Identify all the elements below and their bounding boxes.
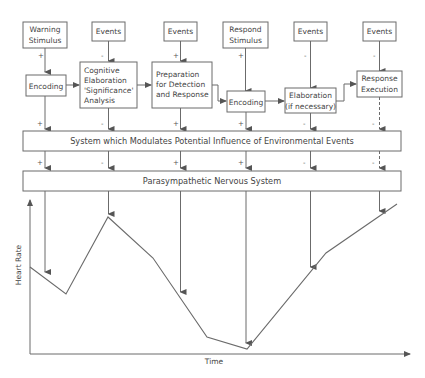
svg-text:Encoding: Encoding: [29, 82, 64, 91]
svg-text:Events: Events: [298, 27, 323, 36]
svg-text:and Response: and Response: [156, 90, 209, 99]
top-box-events-2: Events: [164, 22, 197, 41]
lower-arrows: + - + + - -: [37, 151, 380, 168]
process-box-preparation: Preparation for Detection and Response: [152, 62, 212, 108]
svg-text:+: +: [37, 120, 43, 128]
x-axis-label: Time: [204, 357, 224, 366]
svg-text:System which Modulates Potenti: System which Modulates Potential Influen…: [70, 136, 354, 146]
svg-text:Respond: Respond: [229, 25, 261, 34]
svg-text:Events: Events: [96, 27, 121, 36]
process-box-elaboration: Elaboration (if necessary): [285, 88, 336, 113]
y-axis-label: Heart Rate: [14, 244, 23, 285]
svg-text:+: +: [238, 52, 244, 60]
svg-text:Cognitive: Cognitive: [84, 66, 120, 75]
svg-text:Analysis: Analysis: [84, 96, 115, 105]
heart-rate-curve: [30, 204, 397, 349]
svg-text:-: -: [101, 52, 104, 60]
top-box-events-4: Events: [363, 22, 396, 41]
effect-arrows: [45, 191, 380, 343]
svg-text:-: -: [373, 52, 376, 60]
svg-text:Events: Events: [367, 27, 392, 36]
chart-axes: Time Heart Rate: [14, 200, 410, 366]
modulation-system-bar: System which Modulates Potential Influen…: [23, 131, 401, 151]
svg-text:Parasympathetic Nervous System: Parasympathetic Nervous System: [143, 176, 281, 186]
svg-text:-: -: [304, 52, 307, 60]
process-box-encoding-1: Encoding: [26, 75, 66, 96]
svg-text:Warning: Warning: [30, 25, 61, 34]
svg-text:Stimulus: Stimulus: [29, 36, 62, 45]
svg-text:for Detection: for Detection: [156, 80, 205, 89]
svg-text:+: +: [173, 120, 179, 128]
diagram-canvas: Warning Stimulus Events Events Respond S…: [0, 0, 425, 378]
svg-text:-: -: [101, 120, 104, 128]
svg-text:-: -: [372, 159, 375, 167]
svg-text:(if necessary): (if necessary): [285, 102, 336, 111]
svg-text:+: +: [173, 52, 179, 60]
process-box-cognitive-elaboration: Cognitive Elaboration 'Significance' Ana…: [80, 62, 137, 108]
top-box-events-1: Events: [92, 22, 125, 41]
svg-text:-: -: [101, 159, 104, 167]
svg-text:-: -: [303, 120, 306, 128]
svg-text:+: +: [37, 159, 43, 167]
svg-text:-: -: [372, 120, 375, 128]
svg-text:+: +: [173, 159, 179, 167]
svg-text:+: +: [238, 120, 244, 128]
svg-text:Execution: Execution: [361, 85, 398, 94]
svg-text:Stimulus: Stimulus: [229, 36, 262, 45]
svg-text:-: -: [303, 159, 306, 167]
top-box-respond-stimulus: Respond Stimulus: [223, 22, 268, 48]
svg-text:Elaboration: Elaboration: [84, 76, 127, 85]
process-box-encoding-2: Encoding: [227, 91, 265, 112]
svg-text:'Significance': 'Significance': [84, 86, 134, 95]
svg-text:Preparation: Preparation: [156, 70, 200, 79]
svg-text:Events: Events: [168, 27, 193, 36]
svg-text:Response: Response: [361, 74, 397, 83]
parasympathetic-bar: Parasympathetic Nervous System: [23, 171, 401, 191]
svg-text:+: +: [38, 52, 44, 60]
top-box-events-3: Events: [294, 22, 327, 41]
svg-text:Encoding: Encoding: [229, 98, 264, 107]
top-box-warning-stimulus: Warning Stimulus: [23, 22, 67, 48]
process-box-response-execution: Response Execution: [357, 71, 402, 97]
svg-text:+: +: [238, 159, 244, 167]
svg-text:Elaboration: Elaboration: [289, 91, 332, 100]
